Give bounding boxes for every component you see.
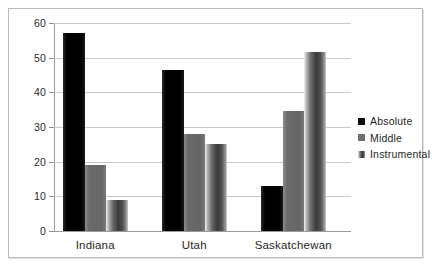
x-tick-label: Saskatchewan bbox=[255, 239, 332, 251]
y-tick-label: 50 bbox=[34, 52, 46, 64]
y-tick-mark bbox=[49, 231, 54, 232]
gridline bbox=[54, 231, 351, 232]
legend-label-middle: Middle bbox=[370, 132, 402, 144]
legend-item: Instrumental bbox=[358, 146, 430, 163]
legend-item: Absolute bbox=[358, 113, 430, 130]
bar-middle-utah bbox=[184, 134, 206, 231]
legend-swatch-middle bbox=[358, 134, 365, 141]
y-tick-label: 10 bbox=[34, 190, 46, 202]
y-tick-mark bbox=[49, 196, 54, 197]
gridline bbox=[54, 23, 351, 24]
bar-instrumental-indiana bbox=[106, 200, 128, 231]
bar-absolute-indiana bbox=[63, 33, 85, 231]
x-tick-label: Indiana bbox=[76, 239, 115, 251]
legend-item: Middle bbox=[358, 130, 430, 147]
y-tick-mark bbox=[49, 92, 54, 93]
bar-instrumental-saskatchewan bbox=[304, 52, 326, 231]
bar-middle-indiana bbox=[85, 165, 107, 231]
y-tick-mark bbox=[49, 127, 54, 128]
legend-swatch-absolute bbox=[358, 118, 365, 125]
bar-instrumental-utah bbox=[205, 144, 227, 231]
x-tick-label: Utah bbox=[182, 239, 207, 251]
chart-legend: Absolute Middle Instrumental bbox=[358, 113, 430, 163]
chart-container: 0102030405060IndianaUtahSaskatchewan Abs… bbox=[8, 8, 423, 258]
plot-area: 0102030405060IndianaUtahSaskatchewan bbox=[54, 23, 351, 231]
y-tick-mark bbox=[49, 162, 54, 163]
y-tick-label: 40 bbox=[34, 86, 46, 98]
y-tick-label: 0 bbox=[40, 225, 46, 237]
legend-label-instrumental: Instrumental bbox=[370, 148, 430, 160]
legend-label-absolute: Absolute bbox=[370, 115, 412, 127]
y-tick-label: 60 bbox=[34, 17, 46, 29]
bar-middle-saskatchewan bbox=[283, 111, 305, 231]
y-tick-label: 20 bbox=[34, 156, 46, 168]
legend-swatch-instrumental bbox=[358, 151, 365, 158]
bar-absolute-utah bbox=[162, 70, 184, 231]
y-tick-mark bbox=[49, 23, 54, 24]
y-tick-mark bbox=[49, 58, 54, 59]
bar-absolute-saskatchewan bbox=[261, 186, 283, 231]
y-tick-label: 30 bbox=[34, 121, 46, 133]
